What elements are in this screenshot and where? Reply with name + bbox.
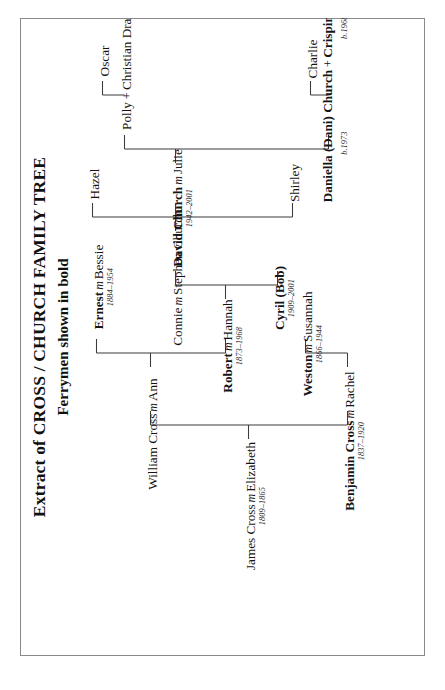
spouse-name: Hannah bbox=[219, 299, 234, 340]
person-name: Hazel bbox=[86, 169, 101, 200]
person-dates: 1884–1954 bbox=[106, 245, 114, 329]
node-cyril-bob[interactable]: Cyril (Bob) 1909–2001 bbox=[270, 266, 295, 330]
spouse-name: Julie bbox=[169, 149, 184, 174]
person-name: Benjamin Cross bbox=[341, 421, 356, 511]
person-dates: 1866–1944 bbox=[315, 292, 323, 397]
node-robert-cross[interactable]: RobertmHannah 1873–1968 bbox=[218, 299, 243, 392]
chart-rotation-wrapper: Extract of CROSS / CHURCH FAMILY TREE Fe… bbox=[20, 18, 425, 656]
person-dates: 1809–1865 bbox=[258, 442, 266, 570]
spouse-name: Rachel bbox=[341, 371, 356, 408]
partnership-symbol: + bbox=[119, 90, 133, 102]
marriage-symbol: m bbox=[145, 401, 159, 414]
title-block: Extract of CROSS / CHURCH FAMILY TREE Fe… bbox=[28, 18, 72, 656]
person-name: Weston bbox=[299, 355, 314, 397]
node-oscar[interactable]: Oscar bbox=[95, 46, 112, 77]
spouse-name: Susannah bbox=[299, 292, 314, 343]
node-david-church[interactable]: David ChurchmJulie 1942–2001 bbox=[168, 149, 193, 267]
person-name: Polly bbox=[118, 102, 133, 130]
marriage-symbol: m bbox=[342, 408, 356, 421]
partnership-symbol: + bbox=[320, 58, 334, 70]
person-name: William Cross bbox=[144, 414, 159, 490]
node-daniella-chalker[interactable]: Daniella (Dani) Church+Crispin Chalker b… bbox=[320, 18, 349, 202]
marriage-symbol: m bbox=[170, 174, 184, 187]
marriage-symbol: m bbox=[91, 279, 105, 292]
node-william-cross[interactable]: William CrossmAnn bbox=[143, 378, 160, 489]
person-name: David Church bbox=[169, 187, 184, 267]
person-dates-left: b.1973 bbox=[340, 84, 348, 202]
node-james-cross[interactable]: James CrossmElizabeth 1809–1865 bbox=[241, 442, 266, 570]
spouse-name: Ann bbox=[144, 378, 159, 401]
person-name: Robert bbox=[219, 353, 234, 393]
person-name: Oscar bbox=[96, 46, 111, 77]
marriage-symbol: m bbox=[243, 492, 257, 505]
spouse-name: Bessie bbox=[90, 245, 105, 279]
node-shirley[interactable]: Shirley bbox=[285, 164, 302, 202]
family-tree-chart: Extract of CROSS / CHURCH FAMILY TREE Fe… bbox=[20, 18, 425, 656]
node-hazel[interactable]: Hazel bbox=[85, 169, 102, 200]
person-name: James Cross bbox=[242, 504, 257, 570]
node-polly-drane[interactable]: Polly+Christian Drane bbox=[117, 18, 134, 130]
page-title: Extract of CROSS / CHURCH FAMILY TREE bbox=[28, 18, 50, 656]
person-dates: 1873–1968 bbox=[235, 299, 243, 392]
page-root: Extract of CROSS / CHURCH FAMILY TREE Fe… bbox=[0, 0, 445, 690]
marriage-symbol: m bbox=[170, 295, 184, 308]
person-name: Shirley bbox=[286, 164, 301, 202]
person-name: Ernest bbox=[90, 292, 105, 329]
person-dates: 1837–1920 bbox=[357, 371, 365, 511]
node-charlie[interactable]: Charlie bbox=[303, 40, 320, 79]
spouse-name: Christian Drane bbox=[118, 18, 133, 90]
spouse-name: Crispin Chalker bbox=[319, 18, 334, 58]
person-name: Daniella (Dani) Church bbox=[319, 70, 334, 202]
spouse-name: Elizabeth bbox=[242, 442, 257, 492]
marriage-symbol: m bbox=[300, 342, 314, 355]
marriage-symbol: m bbox=[220, 340, 234, 353]
person-name: Connie bbox=[169, 308, 184, 346]
person-dates: 1942–2001 bbox=[185, 149, 193, 267]
page-subtitle: Ferrymen shown in bold bbox=[53, 18, 73, 656]
person-name: Charlie bbox=[304, 40, 319, 79]
person-name: Cyril (Bob) bbox=[271, 266, 286, 330]
node-ernest-cross[interactable]: ErnestmBessie 1884–1954 bbox=[89, 245, 114, 329]
node-benjamin-cross[interactable]: Benjamin CrossmRachel 1837–1920 bbox=[340, 371, 365, 511]
person-dates-right: b.1968 bbox=[340, 18, 348, 84]
person-dates: 1909–2001 bbox=[287, 266, 295, 330]
node-weston-cross[interactable]: WestonmSusannah 1866–1944 bbox=[298, 292, 323, 397]
